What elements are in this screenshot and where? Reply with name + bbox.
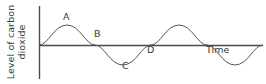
- carbon-dioxide-level-chart: Level of carbon dioxide A B C D Time: [0, 0, 266, 84]
- plot-area: [0, 0, 266, 84]
- curve-point-label-a: A: [63, 12, 70, 22]
- curve-point-label-b: B: [94, 29, 101, 39]
- x-axis-label: Time: [206, 45, 229, 55]
- curve-point-label-c: C: [122, 61, 129, 71]
- curve-point-label-d: D: [147, 45, 154, 55]
